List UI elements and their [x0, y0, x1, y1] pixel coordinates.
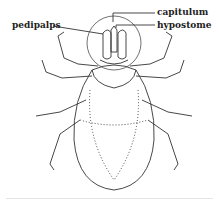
hypostome-label: hypostome [157, 20, 212, 30]
leg-left-2 [42, 60, 92, 78]
leg-right-4 [148, 120, 178, 170]
pedipalps-label: pedipalps [12, 20, 61, 30]
capitulum-leader [113, 13, 155, 22]
leg-right-1 [130, 32, 172, 66]
leg-left-4 [50, 120, 80, 170]
scutum [92, 65, 136, 88]
leg-right-3 [142, 100, 192, 116]
leg-left-3 [36, 100, 86, 116]
capitulum-circle [87, 16, 141, 70]
leg-left-1 [58, 32, 98, 66]
leg-right-2 [136, 60, 184, 78]
bottom-divider [6, 198, 213, 199]
tick-illustration [0, 0, 219, 202]
capitulum-label: capitulum [157, 7, 208, 17]
